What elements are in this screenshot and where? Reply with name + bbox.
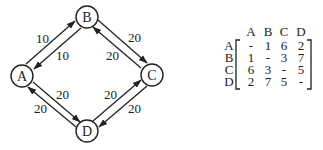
- col-header-c: C: [280, 24, 289, 39]
- node-c: C: [141, 64, 163, 86]
- diagram-canvas: 10 10 20 20 20 20 20 20 A B C D A B: [0, 0, 323, 150]
- node-b: B: [76, 6, 98, 28]
- matrix-right-bracket: [307, 40, 311, 89]
- weight-c-to-b: 20: [106, 48, 119, 63]
- matrix-row-c: 6 3 - 5: [248, 62, 305, 77]
- weight-a-to-b: 10: [36, 31, 49, 46]
- weight-b-to-c: 20: [128, 30, 141, 45]
- weight-a-to-d: 20: [56, 87, 69, 102]
- weight-d-to-c: 20: [104, 87, 117, 102]
- node-d-label: D: [82, 124, 92, 139]
- matrix-row-b: 1 - 3 7: [248, 50, 305, 65]
- row-header-d: D: [224, 74, 233, 89]
- matrix-cell: 7: [265, 74, 272, 89]
- node-d: D: [76, 120, 98, 142]
- matrix-left-bracket: [236, 40, 240, 89]
- matrix-row-d: 2 7 5 -: [248, 74, 303, 89]
- matrix-row-a: - 1 6 2: [249, 38, 304, 53]
- matrix-cell: 2: [248, 74, 255, 89]
- graph-nodes: A B C D: [11, 6, 163, 142]
- node-a-label: A: [17, 69, 28, 84]
- node-c-label: C: [147, 68, 156, 83]
- matrix-cell: -: [299, 74, 303, 89]
- node-a: A: [11, 65, 33, 87]
- matrix-cell: 5: [281, 74, 288, 89]
- weight-b-to-a: 10: [56, 48, 69, 63]
- distance-matrix: A B C D A B C D - 1 6 2 1 - 3 7 6: [224, 24, 311, 89]
- col-header-b: B: [264, 24, 273, 39]
- weight-d-to-a: 20: [34, 101, 47, 116]
- matrix-row-headers: A B C D: [224, 38, 234, 89]
- col-header-a: A: [246, 24, 256, 39]
- weight-c-to-d: 20: [128, 101, 141, 116]
- node-b-label: B: [82, 10, 91, 25]
- col-header-d: D: [296, 24, 305, 39]
- matrix-column-headers: A B C D: [246, 24, 305, 39]
